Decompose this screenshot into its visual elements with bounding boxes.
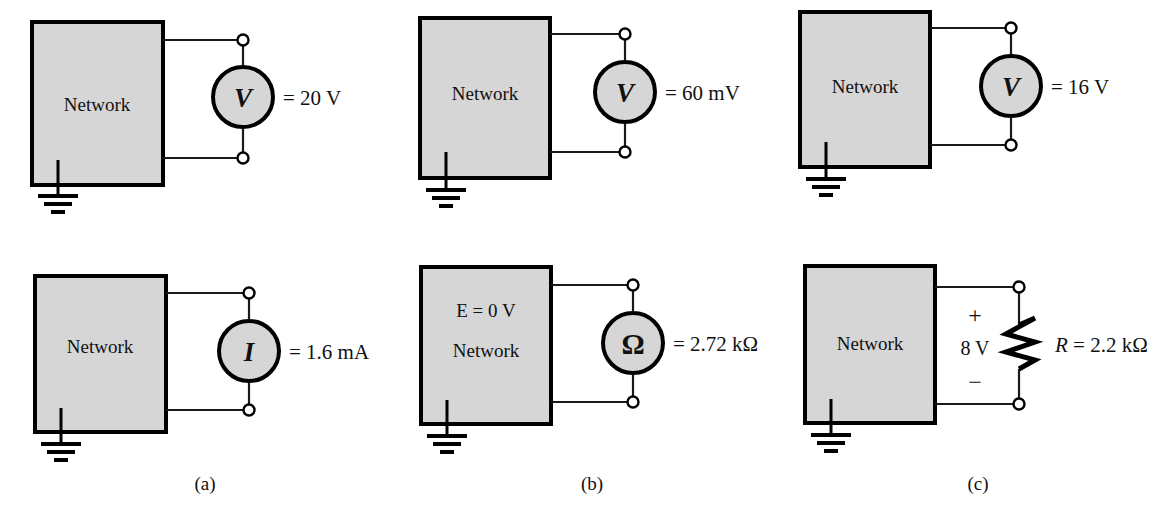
terminal-node-bottom [1006, 140, 1017, 151]
terminal-node-bottom [628, 397, 639, 408]
measured-value: = 16 V [1051, 75, 1109, 99]
terminal-node-top [1014, 282, 1025, 293]
network-label: Network [452, 83, 519, 104]
measured-value: = 2.72 kΩ [673, 332, 758, 356]
terminal-node-top [1006, 23, 1017, 34]
network-label: Network [453, 340, 520, 361]
meter-letter: V [234, 83, 254, 113]
panel-caption-c: (c) [967, 473, 988, 495]
network-label: Network [64, 94, 131, 115]
panel-b-top: Network V = 60 mV [420, 18, 740, 206]
network-box-note: E = 0 V [456, 300, 516, 321]
meter-letter: I [243, 337, 256, 367]
meter-letter: Ω [621, 328, 644, 360]
polarity-plus-label: + [968, 302, 982, 328]
panel-caption-a: (a) [194, 473, 215, 495]
resistor-var-label: R [1054, 333, 1068, 357]
measured-value: = 20 V [283, 86, 341, 110]
meter-letter: V [1002, 72, 1022, 102]
network-label: Network [837, 333, 904, 354]
measured-value: = 60 mV [665, 81, 740, 105]
polarity-minus-label: − [968, 369, 982, 395]
measured-value: = 1.6 mA [289, 340, 370, 364]
terminal-node-top [244, 288, 255, 299]
circuit-figure: Network V = 20 V Network [0, 0, 1157, 510]
terminal-node-bottom [1014, 399, 1025, 410]
network-label: Network [832, 76, 899, 97]
terminal-node-top [628, 280, 639, 291]
panel-c-bottom: Network + 8 V − R = 2.2 kΩ (c) [805, 266, 1148, 495]
terminal-node-top [238, 35, 249, 46]
panel-caption-b: (b) [581, 473, 603, 495]
panel-c-top: Network V = 16 V [800, 12, 1109, 195]
panel-a-bottom: Network I = 1.6 mA (a) [35, 276, 370, 495]
resistor-value: R = 2.2 kΩ [1054, 333, 1148, 357]
terminal-node-top [620, 29, 631, 40]
voltage-drop-label: 8 V [960, 337, 990, 359]
terminal-node-bottom [620, 147, 631, 158]
terminal-node-bottom [244, 405, 255, 416]
network-label: Network [67, 336, 134, 357]
panel-b-bottom: E = 0 V Network Ω = 2.72 kΩ (b) [421, 267, 758, 495]
meter-letter: V [616, 78, 636, 108]
panel-a-top: Network V = 20 V [32, 22, 341, 212]
terminal-node-bottom [238, 153, 249, 164]
resistor-value-text: = 2.2 kΩ [1068, 333, 1148, 357]
resistor-symbol [1006, 318, 1035, 369]
